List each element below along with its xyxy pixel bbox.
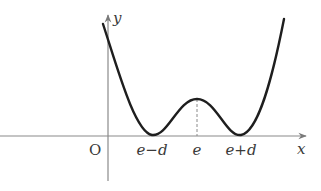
tick-label-e-minus-d: e−d xyxy=(136,141,167,159)
quartic-graph-figure: y x O e−d e e+d xyxy=(0,0,321,191)
x-axis-label: x xyxy=(297,140,306,158)
tick-label-e-plus-d: e+d xyxy=(225,141,256,159)
origin-label: O xyxy=(89,141,101,159)
quartic-curve xyxy=(103,19,284,135)
tick-label-e: e xyxy=(193,141,202,159)
y-axis-label: y xyxy=(112,9,122,27)
